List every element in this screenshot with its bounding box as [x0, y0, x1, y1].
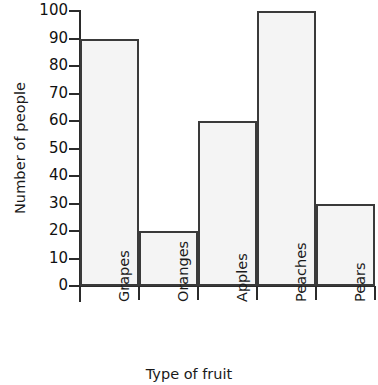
y-tick-label: 60: [22, 113, 68, 128]
x-category-label: Oranges: [176, 182, 191, 302]
y-tick-label: 80: [22, 58, 68, 73]
x-tick-mark: [374, 286, 376, 300]
x-tick-mark: [256, 286, 258, 300]
bar-chart: Number of people 100 90 80 70 60 50 40 3…: [0, 0, 378, 385]
y-tick-label: 50: [22, 141, 68, 156]
x-tick-mark: [79, 286, 81, 300]
x-category-label: Pears: [353, 182, 368, 302]
x-tick-mark: [197, 286, 199, 300]
y-tick-label: 10: [22, 251, 68, 266]
y-tick-label: 40: [22, 168, 68, 183]
y-tick-label: 20: [22, 223, 68, 238]
x-tick-mark: [138, 286, 140, 300]
y-tick-label: 100: [22, 3, 68, 18]
x-category-label: Peaches: [294, 182, 309, 302]
y-tick-label: 30: [22, 196, 68, 211]
x-category-label: Grapes: [117, 182, 132, 302]
x-axis-title: Type of fruit: [0, 366, 378, 382]
x-category-label: Apples: [235, 182, 250, 302]
y-axis-tick-labels: 100 90 80 70 60 50 40 30 20 10 0: [22, 0, 68, 385]
y-tick-label: 0: [22, 278, 68, 293]
x-tick-mark: [315, 286, 317, 300]
y-tick-label: 90: [22, 31, 68, 46]
y-tick-label: 70: [22, 86, 68, 101]
